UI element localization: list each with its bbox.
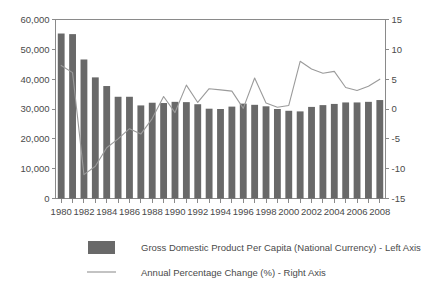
bar xyxy=(194,104,201,198)
x-axis-tick-label: 1980 xyxy=(51,206,72,217)
legend-swatch-bar xyxy=(88,241,115,254)
bar xyxy=(92,77,99,198)
bar xyxy=(172,102,179,199)
plot-area: 010,00020,00030,00040,00050,00060,000 -1… xyxy=(20,14,405,217)
bar xyxy=(297,111,304,198)
right-axis: -15-10-5051015 xyxy=(386,14,406,204)
left-axis-tick-label: 60,000 xyxy=(20,14,49,25)
bar xyxy=(137,105,144,198)
x-axis-tick-label: 2004 xyxy=(324,206,345,217)
x-axis-tick-label: 1992 xyxy=(187,206,208,217)
right-axis-tick-label: -10 xyxy=(392,163,406,174)
right-axis-tick-label: 15 xyxy=(392,14,403,25)
bar xyxy=(240,104,247,199)
bar xyxy=(308,107,315,199)
left-axis-tick-label: 40,000 xyxy=(20,74,49,85)
x-axis-tick-label: 1998 xyxy=(255,206,276,217)
right-axis-tick-label: 10 xyxy=(392,44,403,55)
x-axis-tick-label: 1990 xyxy=(164,206,185,217)
x-axis-tick-label: 2002 xyxy=(301,206,322,217)
bar xyxy=(376,100,383,198)
bar xyxy=(58,34,65,199)
legend-label-bar: Gross Domestic Product Per Capita (Natio… xyxy=(141,242,421,253)
left-axis-tick-label: 30,000 xyxy=(20,103,49,114)
bar xyxy=(183,102,190,198)
x-axis-tick-label: 1984 xyxy=(96,206,117,217)
x-axis-tick-label: 1988 xyxy=(142,206,163,217)
x-axis-tick-label: 2000 xyxy=(278,206,299,217)
right-axis-tick-label: -5 xyxy=(392,133,400,144)
right-axis-tick-label: 0 xyxy=(392,103,397,114)
x-axis-tick-label: 1986 xyxy=(119,206,140,217)
x-axis-tick-label: 1982 xyxy=(73,206,94,217)
chart-figure: 010,00020,00030,00040,00050,00060,000 -1… xyxy=(0,0,438,287)
bar xyxy=(217,109,224,199)
bar xyxy=(160,103,167,198)
right-axis-tick-label: 5 xyxy=(392,74,397,85)
left-axis-tick-label: 50,000 xyxy=(20,44,49,55)
right-axis-tick-label: -15 xyxy=(392,193,406,204)
bar xyxy=(115,97,122,199)
bar xyxy=(263,106,270,198)
bar xyxy=(320,105,327,198)
x-axis-tick-label: 2006 xyxy=(346,206,367,217)
chart-container: 010,00020,00030,00040,00050,00060,000 -1… xyxy=(0,0,438,287)
x-axis-tick-label: 1996 xyxy=(233,206,254,217)
left-axis-tick-label: 0 xyxy=(44,193,49,204)
bar xyxy=(126,97,133,199)
bar xyxy=(149,103,156,199)
bar xyxy=(228,107,235,199)
chart-legend: Gross Domestic Product Per Capita (Natio… xyxy=(87,241,421,278)
bar xyxy=(342,102,349,198)
bar xyxy=(274,109,281,199)
bar xyxy=(331,104,338,199)
bar-series xyxy=(58,34,383,199)
bar xyxy=(285,111,292,199)
legend-label-line: Annual Percentage Change (%) - Right Axi… xyxy=(141,267,326,278)
bar xyxy=(354,102,361,198)
left-axis: 010,00020,00030,00040,00050,00060,000 xyxy=(20,14,55,204)
bar xyxy=(81,59,88,198)
bar xyxy=(206,109,213,199)
bar xyxy=(69,34,76,198)
bar xyxy=(365,102,372,199)
x-axis-tick-label: 1994 xyxy=(210,206,231,217)
x-axis: 1980198219841986198819901992199419961998… xyxy=(51,199,391,217)
bar xyxy=(251,105,258,199)
left-axis-tick-label: 10,000 xyxy=(20,163,49,174)
left-axis-tick-label: 20,000 xyxy=(20,133,49,144)
x-axis-tick-label: 2008 xyxy=(369,206,390,217)
bar xyxy=(103,86,110,198)
